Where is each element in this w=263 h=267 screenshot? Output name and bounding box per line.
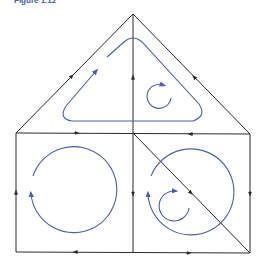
arrow-up-left-icon <box>194 77 196 79</box>
edge-left-to-apex <box>16 14 133 133</box>
arrow-up-right-icon <box>70 76 72 78</box>
edge-bottom-horizontal <box>16 252 250 253</box>
circulation-diagram <box>0 0 263 267</box>
left-square-circulation <box>31 147 117 233</box>
edge-right-to-apex <box>133 14 250 134</box>
right-square-inner-circulation <box>159 191 189 221</box>
triangle-inner-circulation <box>147 84 171 108</box>
arrow-down-right-icon <box>189 191 191 193</box>
network-edges <box>16 14 250 253</box>
